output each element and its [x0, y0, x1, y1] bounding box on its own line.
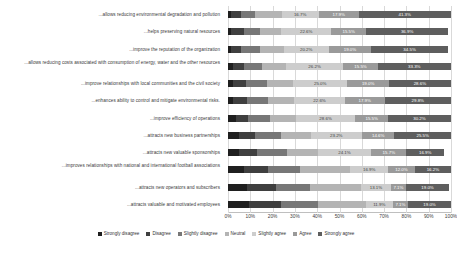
category-label: ...attracts new business partnerships [0, 133, 220, 139]
legend-label: Strongly disagree [104, 231, 140, 236]
bar-segment [318, 201, 366, 208]
bar-segment [281, 132, 311, 139]
legend-swatch-icon [146, 232, 150, 236]
bar-segment: 28.6% [296, 115, 356, 122]
legend-label: Slightly agree [258, 231, 286, 236]
bar-segment [276, 184, 311, 191]
segment-value-label: 11.9% [373, 202, 385, 207]
category-label: ...improves relationships with national … [0, 163, 220, 169]
bar-segment: 16.9% [350, 166, 388, 173]
legend-swatch-icon [178, 232, 182, 236]
segment-value-label: 15.5% [354, 64, 366, 69]
bar-segment: 28.6% [389, 80, 451, 87]
bar-segment [228, 166, 244, 173]
bar-segment [247, 184, 276, 191]
bar-segment: 15.5% [343, 63, 377, 70]
category-axis-labels: ...allows reducing environmental degrada… [0, 6, 224, 213]
bar-segment: 7.1% [391, 184, 407, 191]
legend-item[interactable]: Slightly disagree [178, 231, 218, 236]
bar-segment: 16.9% [406, 149, 444, 156]
bar-segment: 19.0% [406, 184, 448, 191]
segment-value-label: 12.0% [395, 167, 407, 172]
bar-segment [255, 11, 282, 18]
bar-segment [248, 115, 270, 122]
segment-value-label: 14.6% [372, 133, 384, 138]
gridline [317, 6, 318, 213]
gridline [384, 6, 385, 213]
segment-value-label: 34.5% [403, 47, 415, 52]
legend-swatch-icon [225, 232, 229, 236]
segment-value-label: 30.2% [413, 116, 425, 121]
bar-segment [268, 166, 300, 173]
segment-value-label: 28.6% [319, 116, 331, 121]
bar-segment: 17.9% [319, 11, 359, 18]
legend-item[interactable]: Slightly agree [252, 231, 286, 236]
bar-segment [268, 97, 295, 104]
plot-wrapper: ...allows reducing environmental degrada… [0, 6, 452, 213]
segment-value-label: 25.0% [314, 81, 326, 86]
bar-segment [244, 166, 268, 173]
bar-segment [260, 46, 284, 53]
x-axis-tick-label: 100% [445, 214, 457, 219]
category-label: ...allows reducing costs associated with… [0, 60, 220, 66]
bar-segment: 22.6% [294, 97, 344, 104]
legend-item[interactable]: Neutral [225, 231, 246, 236]
bar-segment: 15.5% [355, 115, 387, 122]
bar-segment: 16.2% [415, 166, 451, 173]
bar-segment: 25.5% [394, 132, 451, 139]
x-axis-tick-label: 30% [290, 214, 300, 219]
bar-segment [247, 97, 268, 104]
bar-segment [231, 28, 244, 35]
bar-segment [239, 149, 258, 156]
bar-segment: 19.0% [408, 201, 450, 208]
bar-row: 23.2%14.6%25.5% [228, 132, 451, 139]
gridline [340, 6, 341, 213]
bar-row: 25.0%19.0%28.6% [228, 80, 451, 87]
bar-segment: 29.8% [385, 97, 451, 104]
legend-label: Disagree [152, 231, 170, 236]
legend-item[interactable]: Strongly agree [318, 231, 354, 236]
bar-segment [260, 28, 281, 35]
legend-label: Agree [299, 231, 311, 236]
bar-segment: 15.7% [371, 149, 406, 156]
bar-row: 28.6%15.5%30.2% [228, 115, 451, 122]
x-axis-tick-label: 70% [379, 214, 389, 219]
category-label: ...attracts new operators and subscriber… [0, 185, 220, 191]
bar-row: 24.1%15.7%16.9% [228, 149, 451, 156]
x-axis-ticks: 0%10%20%30%40%50%60%70%80%90%100% [228, 214, 451, 224]
bar-segment [287, 149, 318, 156]
category-label: ...helps preserving natural resources [0, 29, 220, 35]
bar-segment [233, 63, 244, 70]
bar-segment [241, 46, 260, 53]
legend-item[interactable]: Disagree [146, 231, 170, 236]
bar-segment [244, 63, 262, 70]
bar-segment: 41.3% [359, 11, 451, 18]
legend-swatch-icon [98, 232, 102, 236]
segment-value-label: 17.9% [332, 12, 344, 17]
segment-value-label: 19.0% [421, 185, 433, 190]
gridline [228, 6, 229, 213]
bar-segment [233, 80, 246, 87]
gridline [250, 6, 251, 213]
legend-item[interactable]: Agree [293, 231, 311, 236]
x-axis-tick-label: 0% [225, 214, 232, 219]
bar-segment: 11.9% [366, 201, 393, 208]
bar-segment: 13.1% [361, 184, 390, 191]
x-axis-tick-label: 40% [312, 214, 322, 219]
legend-item[interactable]: Strongly disagree [98, 231, 140, 236]
segment-value-label: 7.1% [395, 202, 405, 207]
legend-swatch-icon [293, 232, 297, 236]
segment-value-label: 16.2% [427, 167, 439, 172]
legend-label: Neutral [231, 231, 246, 236]
gridline [429, 6, 430, 213]
category-label: ...attracts new valuable sponsorships [0, 150, 220, 156]
bar-segment [300, 166, 350, 173]
legend-label: Slightly disagree [184, 231, 218, 236]
category-label: ...improve relationships with local comm… [0, 81, 220, 87]
bar-segment: 24.1% [318, 149, 372, 156]
bar-segment: 33.3% [378, 63, 451, 70]
segment-value-label: 20.2% [300, 47, 312, 52]
bar-segment: 20.2% [284, 46, 329, 53]
bar-segment [239, 132, 255, 139]
segment-value-label: 22.6% [313, 98, 325, 103]
